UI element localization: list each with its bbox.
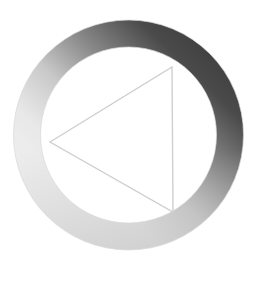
logo-canvas	[0, 0, 258, 288]
play-button-logo	[0, 0, 258, 288]
ring-group	[0, 0, 258, 288]
ring-bottom-shade	[0, 0, 258, 288]
